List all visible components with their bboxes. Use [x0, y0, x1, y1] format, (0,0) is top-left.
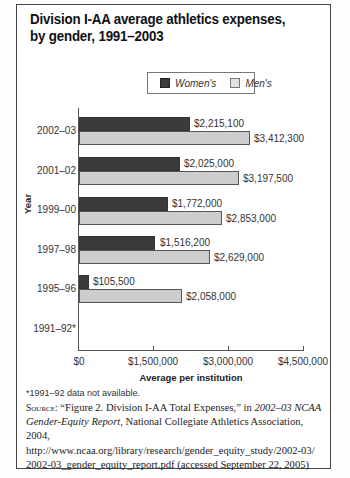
x-tick-label: $1,500,000 — [128, 356, 178, 367]
bar-men-1997-98 — [79, 250, 210, 264]
bar-men-2001-02 — [79, 171, 239, 185]
value-label-women: $2,215,100 — [194, 118, 244, 129]
x-tick-label: $3,000,000 — [203, 356, 253, 367]
source-citation: Source: “Figure 2. Division I-AA Total E… — [26, 401, 326, 472]
value-label-women: $1,772,000 — [172, 198, 222, 209]
x-tick — [303, 346, 304, 351]
category-label: 2001–02 — [37, 165, 76, 176]
legend-label-women: Women's — [175, 78, 216, 89]
bar-women-1997-98 — [79, 236, 155, 250]
legend-swatch-women — [160, 78, 170, 88]
source-label: Source: — [26, 403, 58, 413]
value-label-men: $2,853,000 — [226, 213, 276, 224]
legend-item-men: Men's — [230, 78, 271, 89]
value-label-men: $3,197,500 — [243, 173, 293, 184]
y-axis-label: Year — [22, 174, 33, 214]
x-tick — [153, 346, 154, 351]
value-label-men: $2,629,000 — [214, 252, 264, 263]
legend: Women's Men's — [147, 72, 255, 94]
legend-item-women: Women's — [160, 78, 216, 89]
bar-men-1999-00 — [79, 211, 222, 225]
x-tick-label: $0 — [73, 356, 84, 367]
category-label: 1997–98 — [37, 244, 76, 255]
bar-women-2002-03 — [79, 117, 190, 131]
category-label: 1991–92* — [33, 323, 76, 334]
bar-women-1999-00 — [79, 197, 168, 211]
value-label-women: $2,025,000 — [184, 158, 234, 169]
bar-men-1995-96 — [79, 289, 182, 303]
value-label-women: $105,500 — [93, 276, 135, 287]
legend-swatch-men — [230, 78, 240, 88]
bar-women-2001-02 — [79, 157, 180, 171]
footnote: *1991–92 data not available. — [26, 388, 140, 398]
value-label-men: $2,058,000 — [186, 291, 236, 302]
source-text-pre: “Figure 2. Division I-AA Total Expenses,… — [58, 402, 255, 413]
x-axis-label: Average per institution — [78, 372, 304, 383]
chart-title: Division I-AA average athletics expenses… — [30, 11, 297, 45]
x-tick — [228, 346, 229, 351]
x-tick — [78, 346, 79, 351]
x-tick-label: $4,500,000 — [278, 356, 328, 367]
bar-men-2002-03 — [79, 131, 250, 145]
category-label: 1999–00 — [37, 204, 76, 215]
value-label-men: $3,412,300 — [254, 133, 304, 144]
category-label: 1995–96 — [37, 283, 76, 294]
x-axis-line — [78, 350, 304, 351]
legend-label-men: Men's — [245, 78, 271, 89]
bar-women-1995-96 — [79, 275, 89, 289]
category-label: 2002–03 — [37, 125, 76, 136]
value-label-women: $1,516,200 — [160, 237, 210, 248]
